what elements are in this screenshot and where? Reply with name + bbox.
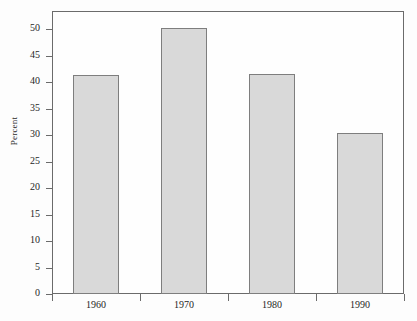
bar bbox=[161, 28, 207, 294]
x-axis-tick-mark bbox=[404, 294, 405, 301]
chart-figure: Percent 05101520253035404550 19601970198… bbox=[0, 0, 417, 321]
bar bbox=[337, 133, 383, 294]
y-axis-tick-label: 30 bbox=[30, 128, 40, 139]
x-axis-tick-label: 1960 bbox=[66, 299, 126, 310]
y-axis-tick-label: 40 bbox=[30, 75, 40, 86]
y-axis-tick-label: 35 bbox=[30, 102, 40, 113]
y-axis-tick-label: 45 bbox=[30, 49, 40, 60]
x-axis-tick-label: 1970 bbox=[154, 299, 214, 310]
y-axis-title: Percent bbox=[9, 81, 19, 181]
bar bbox=[249, 74, 295, 294]
x-axis-tick-mark bbox=[52, 294, 53, 301]
bar bbox=[73, 75, 119, 294]
y-axis-tick-label: 15 bbox=[30, 208, 40, 219]
y-axis-tick-label: 5 bbox=[35, 261, 40, 272]
y-axis-tick-label: 0 bbox=[35, 287, 40, 298]
x-axis-tick-label: 1980 bbox=[242, 299, 302, 310]
y-axis-tick-label: 25 bbox=[30, 155, 40, 166]
y-axis-tick-label: 50 bbox=[30, 22, 40, 33]
x-axis-tick-mark bbox=[316, 294, 317, 301]
y-axis-tick-label: 10 bbox=[30, 234, 40, 245]
x-axis-tick-mark bbox=[140, 294, 141, 301]
x-axis-tick-mark bbox=[228, 294, 229, 301]
x-axis-tick-label: 1990 bbox=[330, 299, 390, 310]
y-axis-tick-label: 20 bbox=[30, 181, 40, 192]
